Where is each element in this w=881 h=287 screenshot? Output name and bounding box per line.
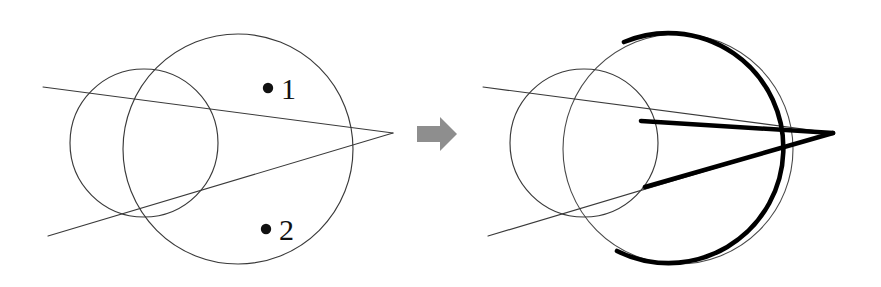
before-small-circle — [70, 69, 218, 217]
figure-container: 1 2 — [0, 0, 881, 287]
after-small-circle — [510, 69, 658, 217]
before-panel: 1 2 — [43, 34, 393, 264]
before-upper-tangent-line — [43, 87, 393, 133]
after-bold-upper-segment — [641, 121, 833, 133]
before-large-circle — [123, 34, 353, 264]
after-panel — [483, 33, 833, 264]
right-arrow-icon — [417, 117, 457, 151]
point-one-dot — [263, 83, 273, 93]
point-two-dot — [261, 224, 271, 234]
geometry-figure: 1 2 — [0, 0, 881, 287]
point-one-label: 1 — [281, 72, 296, 105]
after-large-circle-thin — [563, 34, 793, 264]
before-lower-tangent-line — [48, 133, 393, 236]
point-two-label: 2 — [279, 213, 294, 246]
after-bold-lower-segment — [645, 133, 833, 187]
after-bold-outer-arc — [617, 33, 783, 263]
